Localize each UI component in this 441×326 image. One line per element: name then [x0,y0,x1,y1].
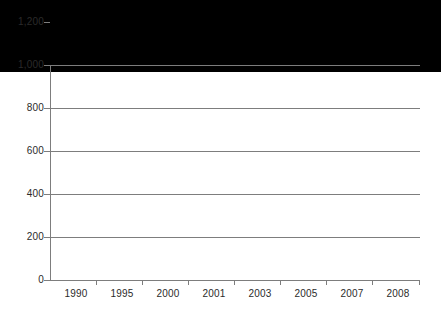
bar-2000 [155,0,181,65]
y-axis-tick-label: 200 [2,232,44,242]
x-axis-line [50,280,420,281]
gridline-600 [50,151,420,152]
gridline-800 [50,108,420,109]
x-axis-tick-label-2001: 2001 [191,288,237,300]
x-axis-tick-mark [234,280,235,285]
x-axis-tick-mark [419,280,420,285]
bar-2001 [201,0,227,65]
x-axis-tick-label-1990: 1990 [53,288,99,300]
bar-2008 [385,0,411,65]
x-axis-tick-label-2008: 2008 [375,288,421,300]
bar-2003 [247,0,273,65]
x-axis-tick-label-2005: 2005 [283,288,329,300]
x-axis-tick-mark [280,280,281,285]
x-axis-tick-label-2000: 2000 [145,288,191,300]
x-axis-tick-mark [142,280,143,285]
gridline-400 [50,194,420,195]
x-axis-tick-mark [96,280,97,285]
gridline-200 [50,237,420,238]
x-axis-tick-mark [372,280,373,285]
y-axis-tick-label: 800 [2,103,44,113]
x-axis-tick-mark [326,280,327,285]
gridline-1000 [50,65,420,66]
bar-1995 [109,0,135,65]
y-axis-tick-label: 600 [2,146,44,156]
y-axis-tick-label: 0 [2,275,44,285]
x-axis-tick-label-2003: 2003 [237,288,283,300]
y-axis-labels: 1,200 1,000 800 600 400 200 0 [0,0,44,326]
x-axis-labels: 1990 1995 2000 2001 2003 2005 2007 2008 [50,288,420,308]
y-axis-tick-label: 1,200 [2,17,44,27]
y-axis-tick-label: 1,000 [2,60,44,70]
bar-2007 [339,0,365,65]
x-axis-tick-mark [188,280,189,285]
y-axis-tick-label: 400 [2,189,44,199]
bar-2005 [293,0,319,65]
bar-1990 [63,0,89,65]
bar-series [50,22,420,65]
x-axis-tick-label-2007: 2007 [329,288,375,300]
x-axis-tick-label-1995: 1995 [99,288,145,300]
bar-chart: 1,200 1,000 800 600 400 200 0 [0,0,441,72]
